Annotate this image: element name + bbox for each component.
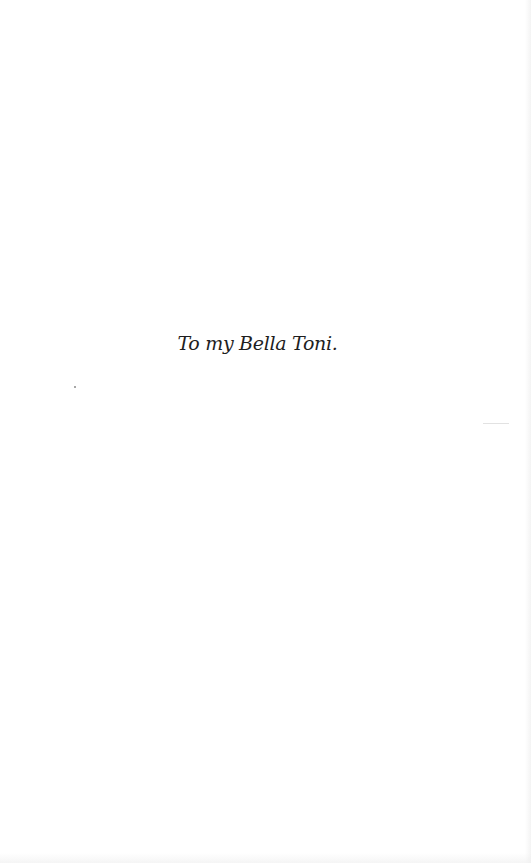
dedication-text: To my Bella Toni. (0, 332, 515, 354)
page-edge-shadow-bottom (0, 853, 531, 863)
page-edge-shadow-right (525, 0, 531, 863)
book-page: To my Bella Toni. (0, 0, 531, 863)
scan-speck (74, 386, 76, 388)
scan-artifact-line (483, 423, 509, 424)
